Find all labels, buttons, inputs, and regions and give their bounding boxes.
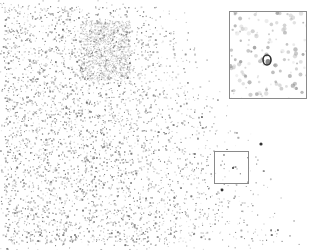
inset-speckle-field (230, 12, 307, 99)
magnified-inset (229, 11, 307, 99)
micrograph-image (0, 0, 317, 250)
